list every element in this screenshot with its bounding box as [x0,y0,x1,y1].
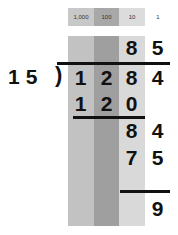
dividend-thousands-digit: 1 [68,66,93,90]
step1-tens-digit: 0 [119,92,144,116]
header-ones-label: 1 [156,14,159,20]
step3-ones-digit: 5 [145,146,170,170]
step2-ones-digit: 4 [145,119,170,143]
division-bar [57,62,170,65]
header-tens: 10 [119,8,145,26]
quotient-tens-digit: 8 [119,36,144,60]
dividend-tens-digit: 8 [119,66,144,90]
header-hundreds: 100 [94,8,119,26]
step2-tens-digit: 8 [119,119,144,143]
step3-tens-digit: 7 [119,146,144,170]
step1-thousands-digit: 1 [68,92,93,116]
dividend-ones-digit: 4 [145,66,170,90]
header-thousands: 1,000 [68,8,94,26]
subtraction-line-2 [120,190,170,193]
dividend-hundreds-digit: 2 [94,66,119,90]
divisor: 15 [8,65,43,89]
remainder-digit: 9 [145,197,170,221]
division-bracket: ) [55,62,62,88]
step1-hundreds-digit: 2 [94,92,119,116]
quotient-ones-digit: 5 [145,36,170,60]
header-ones: 1 [145,8,171,26]
header-tens-label: 10 [129,14,136,20]
header-hundreds-label: 100 [101,14,111,20]
header-thousands-label: 1,000 [73,14,88,20]
